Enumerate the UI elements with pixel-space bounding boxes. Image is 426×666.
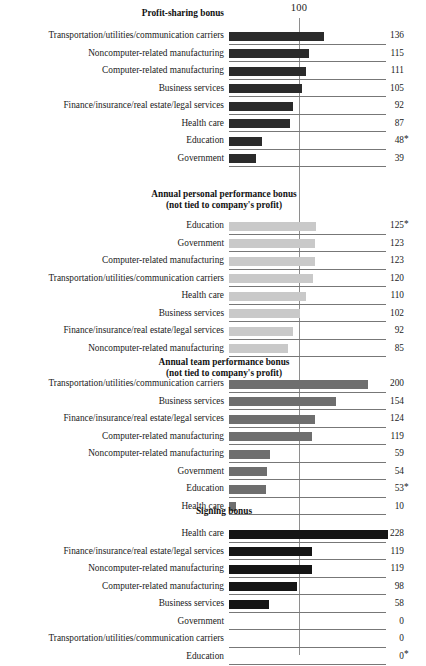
bar [229, 49, 309, 58]
chart-row: Computer-related manufacturing119 [0, 428, 426, 446]
chart-row: Noncomputer-related manufacturing85 [0, 340, 426, 358]
category-label: Business services [0, 83, 224, 94]
category-label: Transportation/utilities/communication c… [0, 378, 224, 389]
chart-row: Education0* [0, 648, 426, 666]
category-label: Education [0, 220, 224, 231]
value-label: 125 [370, 220, 404, 231]
value-label: 119 [370, 431, 404, 442]
panel-title-text: Annual team performance bonus [60, 357, 388, 368]
value-label: 119 [370, 563, 404, 574]
bar [229, 102, 293, 111]
category-label: Education [0, 651, 224, 662]
category-label: Health care [0, 118, 224, 129]
panel-title-1: Profit-sharing bonus [0, 8, 224, 19]
category-label: Business services [0, 396, 224, 407]
category-label: Noncomputer-related manufacturing [0, 448, 224, 459]
bar [229, 32, 324, 41]
footnote-marker: * [404, 482, 409, 493]
category-label: Computer-related manufacturing [0, 255, 224, 266]
bar [229, 415, 315, 424]
category-label: Health care [0, 528, 224, 539]
footnote-marker: * [404, 134, 409, 145]
row-baseline [229, 166, 386, 167]
bar [229, 344, 288, 353]
category-label: Transportation/utilities/communication c… [0, 633, 224, 644]
category-label: Government [0, 153, 224, 164]
value-label: 111 [370, 65, 404, 76]
row-baseline [229, 664, 386, 665]
chart-row: Health care110 [0, 288, 426, 306]
bar [229, 137, 262, 146]
panel-subtitle-text: (not tied to company's profit) [60, 200, 388, 211]
footnote-marker: * [404, 219, 409, 230]
value-label: 200 [370, 378, 404, 389]
panel-title-text: Signing bonus [60, 506, 388, 517]
bar [229, 154, 256, 163]
value-label: 102 [370, 308, 404, 319]
chart-row: Government0 [0, 613, 426, 631]
chart-row: Government54 [0, 463, 426, 481]
category-label: Health care [0, 290, 224, 301]
category-label: Government [0, 616, 224, 627]
panel-title-text: Profit-sharing bonus [0, 8, 224, 19]
value-label: 228 [370, 528, 404, 539]
bar [229, 119, 290, 128]
bar [229, 530, 388, 539]
chart-row: Noncomputer-related manufacturing119 [0, 561, 426, 579]
value-label: 98 [370, 581, 404, 592]
bar [229, 222, 316, 231]
value-label: 136 [370, 30, 404, 41]
category-label: Computer-related manufacturing [0, 431, 224, 442]
value-label: 58 [370, 598, 404, 609]
category-label: Noncomputer-related manufacturing [0, 48, 224, 59]
chart-row: Education53* [0, 481, 426, 499]
value-label: 92 [370, 325, 404, 336]
category-label: Business services [0, 308, 224, 319]
value-label: 124 [370, 413, 404, 424]
bar [229, 84, 302, 93]
bar [229, 239, 315, 248]
value-label: 53 [370, 483, 404, 494]
category-label: Computer-related manufacturing [0, 581, 224, 592]
bar [229, 274, 313, 283]
value-label: 85 [370, 343, 404, 354]
chart-row: Noncomputer-related manufacturing59 [0, 446, 426, 464]
category-label: Transportation/utilities/communication c… [0, 273, 224, 284]
chart-row: Computer-related manufacturing123 [0, 253, 426, 271]
bar [229, 565, 312, 574]
bar [229, 432, 312, 441]
value-label: 0 [370, 633, 404, 644]
value-label: 123 [370, 238, 404, 249]
panel-title-2: Annual personal performance bonus(not ti… [60, 189, 388, 210]
panel-title-4: Signing bonus [60, 506, 388, 517]
chart-row: Transportation/utilities/communication c… [0, 28, 426, 46]
chart-row: Business services105 [0, 80, 426, 98]
chart-row: Noncomputer-related manufacturing115 [0, 45, 426, 63]
chart-row: Health care228 [0, 526, 426, 544]
category-label: Finance/insurance/real estate/legal serv… [0, 325, 224, 336]
category-label: Education [0, 135, 224, 146]
category-label: Computer-related manufacturing [0, 65, 224, 76]
value-label: 110 [370, 290, 404, 301]
bar [229, 467, 267, 476]
chart-row: Education125* [0, 218, 426, 236]
footnote-marker: * [404, 649, 409, 660]
chart-row: Finance/insurance/real estate/legal serv… [0, 98, 426, 116]
value-label: 92 [370, 100, 404, 111]
chart-row: Computer-related manufacturing98 [0, 578, 426, 596]
reference-line-label: 100 [283, 2, 315, 13]
bar [229, 309, 300, 318]
bar [229, 600, 269, 609]
value-label: 0 [370, 651, 404, 662]
value-label: 0 [370, 616, 404, 627]
bar [229, 547, 312, 556]
chart-row: Computer-related manufacturing111 [0, 63, 426, 81]
value-label: 54 [370, 466, 404, 477]
chart-row: Business services102 [0, 305, 426, 323]
bar [229, 292, 306, 301]
value-label: 59 [370, 448, 404, 459]
category-label: Business services [0, 598, 224, 609]
chart-row: Transportation/utilities/communication c… [0, 631, 426, 649]
bar [229, 397, 336, 406]
